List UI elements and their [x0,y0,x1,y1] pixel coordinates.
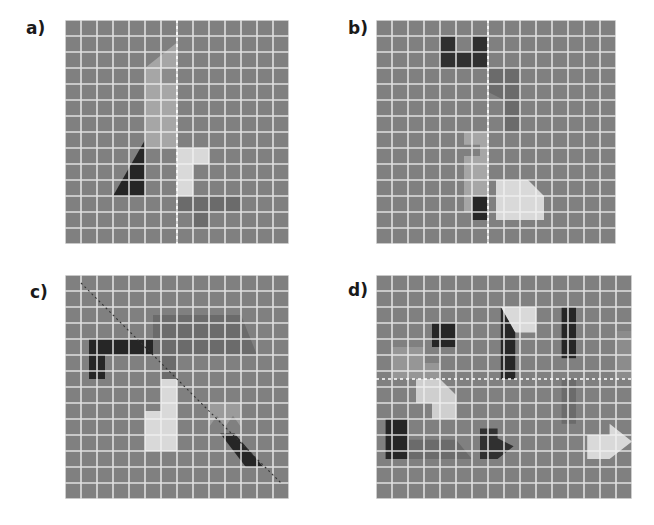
panel-canvas-c [65,275,289,499]
figure-root: a)b)c)d) [0,0,654,525]
panel-label-b: b) [348,20,368,37]
shape-b-black-square [472,196,488,220]
panel-label-d: d) [348,282,368,299]
panel-canvas-a [65,20,289,244]
shape-d-black-square-small [432,323,456,347]
panel-canvas-b [376,20,616,244]
panel-label-a: a) [26,20,45,37]
panel-canvas-d [376,275,632,499]
shape-a-gray-pennant-notch [161,68,177,84]
panel-label-c: c) [30,284,48,301]
shape-d-black-rect-left [386,419,408,459]
